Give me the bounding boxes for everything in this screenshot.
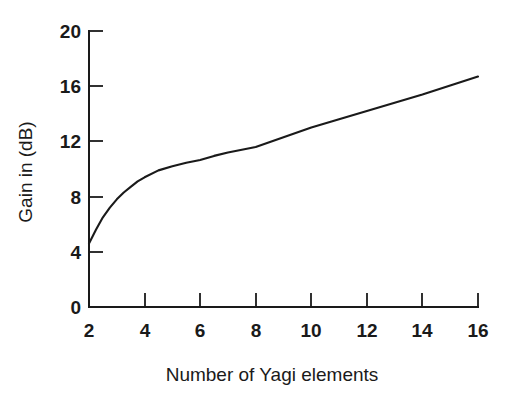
y-tick-label-0: 0: [70, 297, 81, 318]
x-tick-label-14: 14: [411, 320, 433, 341]
x-tick-label-4: 4: [140, 320, 151, 341]
x-axis-tick-labels: 2 4 6 8 10 12 14 16: [84, 320, 489, 341]
x-tick-label-8: 8: [251, 320, 262, 341]
y-tick-label-8: 8: [70, 187, 81, 208]
x-tick-label-6: 6: [195, 320, 206, 341]
gain-vs-elements-line-chart: 20 16 12 8 4 0 2 4 6 8 10 12 14 16: [0, 0, 513, 402]
x-tick-label-12: 12: [356, 320, 377, 341]
y-tick-label-20: 20: [60, 21, 81, 42]
y-tick-label-12: 12: [60, 131, 81, 152]
chart-figure: 20 16 12 8 4 0 2 4 6 8 10 12 14 16: [0, 0, 513, 402]
x-axis-ticks: [89, 293, 478, 307]
axis-spines: [89, 31, 478, 307]
y-tick-label-16: 16: [60, 76, 81, 97]
y-axis-tick-labels: 20 16 12 8 4 0: [60, 21, 82, 318]
y-tick-label-4: 4: [70, 242, 81, 263]
x-tick-label-10: 10: [300, 320, 321, 341]
gain-curve: [89, 77, 478, 244]
x-tick-label-16: 16: [467, 320, 488, 341]
x-axis-title: Number of Yagi elements: [166, 364, 379, 385]
x-tick-label-2: 2: [84, 320, 95, 341]
y-axis-title: Gain in (dB): [15, 121, 36, 222]
